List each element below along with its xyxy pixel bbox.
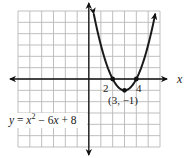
vertex-label: (3, −1) [108,94,138,107]
x-axis-label: x [176,72,183,86]
key-point [134,77,139,82]
root-left-label: 2 [103,82,109,94]
key-point [122,88,127,93]
equation-label: y = x2 − 6x + 8 [8,112,77,127]
equation-tail: + 8 [59,114,77,126]
parabola-graph: x 2 4 (3, −1) y = x2 − 6x + 8 [0,0,185,158]
key-point [110,77,115,82]
equation-mid: − 6 [35,114,53,126]
equation-eq: = [14,114,26,126]
root-right-label: 4 [136,82,142,94]
